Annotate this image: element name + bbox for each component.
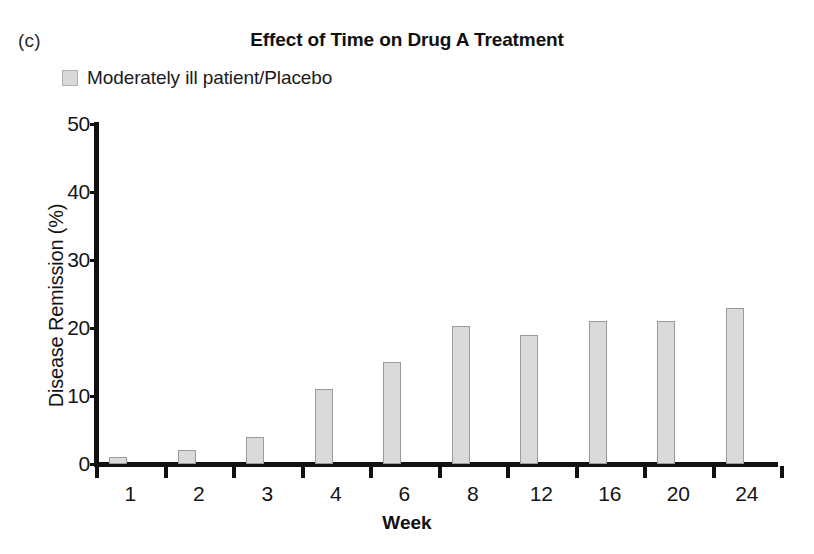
y-tick-label: 10: [6, 384, 90, 408]
bar: [383, 362, 401, 464]
y-tick-mark: [90, 395, 99, 398]
x-axis-line: [94, 462, 778, 467]
y-tick-label: 40: [6, 180, 90, 204]
bar: [657, 321, 675, 464]
x-axis-title: Week: [0, 512, 814, 534]
y-tick-mark: [90, 123, 99, 126]
x-tick-label: 4: [306, 482, 366, 506]
x-tick-label: 6: [374, 482, 434, 506]
bar: [315, 389, 333, 464]
x-tick-mark: [369, 466, 373, 478]
x-tick-label: 2: [169, 482, 229, 506]
x-tick-label: 20: [648, 482, 708, 506]
x-tick-label: 24: [717, 482, 777, 506]
figure-panel: (c) Effect of Time on Drug A Treatment M…: [0, 0, 814, 554]
y-tick-label: 50: [6, 112, 90, 136]
x-tick-mark: [780, 466, 784, 478]
y-tick-mark: [90, 191, 99, 194]
bar: [726, 308, 744, 464]
y-tick-label: 20: [6, 316, 90, 340]
bar: [109, 457, 127, 464]
x-tick-mark: [232, 466, 236, 478]
bar: [178, 450, 196, 464]
x-tick-mark: [95, 466, 99, 478]
y-axis-line: [94, 122, 99, 466]
x-tick-mark: [506, 466, 510, 478]
x-tick-label: 3: [237, 482, 297, 506]
x-tick-mark: [301, 466, 305, 478]
x-tick-mark: [575, 466, 579, 478]
y-tick-label: 0: [6, 452, 90, 476]
bar: [589, 321, 607, 464]
y-tick-label: 30: [6, 248, 90, 272]
y-tick-mark: [90, 259, 99, 262]
bar: [246, 437, 264, 464]
x-tick-mark: [438, 466, 442, 478]
x-tick-mark: [712, 466, 716, 478]
x-tick-label: 8: [443, 482, 503, 506]
x-tick-label: 1: [100, 482, 160, 506]
x-tick-mark: [643, 466, 647, 478]
x-tick-label: 12: [511, 482, 571, 506]
plot-area: Disease Remission (%) Week 01020304050 1…: [0, 0, 814, 554]
x-tick-mark: [164, 466, 168, 478]
x-tick-label: 16: [580, 482, 640, 506]
bar: [520, 335, 538, 464]
y-tick-mark: [90, 327, 99, 330]
bar: [452, 326, 470, 464]
